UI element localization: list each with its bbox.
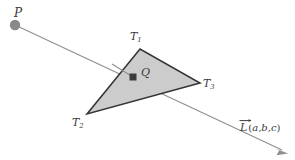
label-direction-vector: L(a,b,c) bbox=[240, 122, 280, 133]
vector-overbar-arrow-icon bbox=[239, 117, 252, 122]
vector-l-symbol: L bbox=[240, 122, 248, 133]
label-point-p: P bbox=[14, 7, 22, 19]
point-p-marker bbox=[10, 20, 20, 30]
label-vertex-t1: T1 bbox=[130, 31, 142, 42]
label-vertex-t2: T2 bbox=[72, 117, 84, 128]
vector-components: (a,b,c) bbox=[248, 122, 280, 133]
geometry-figure: P T1 T2 T3 Q L(a,b,c) bbox=[0, 0, 295, 160]
label-point-q: Q bbox=[141, 67, 150, 78]
figure-canvas bbox=[0, 0, 295, 160]
point-q-marker bbox=[130, 74, 137, 81]
label-vertex-t3: T3 bbox=[203, 78, 215, 89]
